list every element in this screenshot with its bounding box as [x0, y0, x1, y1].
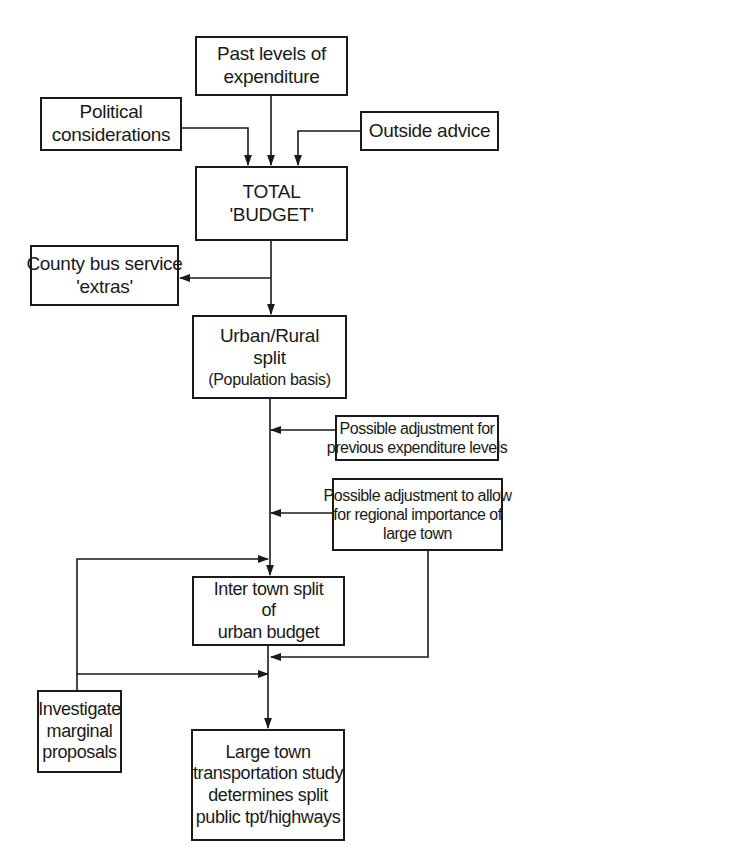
node-text: urban budget — [218, 622, 319, 644]
node-text: previous expenditure levels — [327, 438, 507, 457]
node-past-levels-of-expenditure: Past levels of expenditure — [195, 36, 348, 96]
node-county-bus-service-extras: County bus service 'extras' — [30, 245, 179, 306]
node-investigate-marginal-proposals: Investigate marginal proposals — [37, 690, 122, 773]
node-urban-rural-split: Urban/Rural split (Population basis) — [192, 315, 347, 399]
node-text: Possible adjustment to allow — [324, 486, 512, 505]
node-text: marginal — [47, 721, 113, 743]
node-text: Possible adjustment for — [340, 419, 495, 438]
node-text: County bus service — [26, 253, 182, 276]
node-text: split — [253, 347, 285, 370]
node-inter-town-split: Inter town split of urban budget — [192, 576, 345, 646]
node-outside-advice: Outside advice — [360, 111, 499, 151]
node-text: expenditure — [224, 66, 320, 89]
node-text: Past levels of — [217, 43, 326, 66]
node-text: TOTAL — [243, 181, 301, 204]
node-text: 'extras' — [76, 276, 133, 299]
node-text: for regional importance of — [333, 505, 501, 524]
node-text: considerations — [52, 124, 170, 147]
node-text: of — [261, 600, 275, 622]
node-text: determines split — [208, 785, 328, 807]
node-text: (Population basis) — [208, 370, 331, 389]
node-text: Inter town split — [214, 579, 324, 601]
node-large-town-transportation-study: Large town transportation study determin… — [191, 729, 345, 841]
node-text: transportation study — [193, 763, 343, 785]
node-text: proposals — [42, 742, 116, 764]
node-text: large town — [383, 524, 452, 543]
node-text: Political — [80, 101, 143, 124]
node-text: 'BUDGET' — [229, 204, 313, 227]
node-text: Investigate — [38, 699, 121, 721]
node-adjustment-regional-importance: Possible adjustment to allow for regiona… — [332, 478, 503, 551]
node-text: public tpt/highways — [196, 807, 341, 829]
node-text: Large town — [225, 742, 310, 764]
node-adjustment-previous-expenditure: Possible adjustment for previous expendi… — [335, 415, 499, 461]
node-total-budget: TOTAL 'BUDGET' — [195, 166, 348, 241]
node-text: Outside advice — [369, 120, 490, 143]
node-text: Urban/Rural — [220, 325, 319, 348]
node-political-considerations: Political considerations — [40, 97, 182, 151]
